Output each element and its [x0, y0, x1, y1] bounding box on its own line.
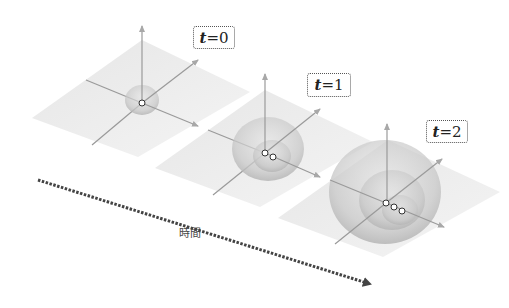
- point: [270, 154, 276, 160]
- label-t2: t = 2: [426, 120, 468, 143]
- point: [262, 150, 268, 156]
- point: [399, 208, 405, 214]
- point: [383, 200, 389, 206]
- time-label: 時間: [179, 224, 201, 240]
- label-val: 0: [219, 29, 229, 47]
- label-var: t: [199, 29, 206, 47]
- point: [391, 204, 397, 210]
- diagram-stage: t = 0 t = 1 t = 2 時間: [0, 0, 509, 308]
- label-t0: t = 0: [193, 26, 235, 49]
- label-val: 1: [334, 76, 344, 94]
- label-eq: =: [439, 123, 452, 141]
- label-var: t: [432, 123, 439, 141]
- label-t1: t = 1: [307, 73, 351, 97]
- diagram-canvas: [0, 0, 509, 308]
- point: [139, 100, 145, 106]
- label-eq: =: [206, 29, 219, 47]
- label-val: 2: [452, 123, 462, 141]
- label-eq: =: [321, 76, 334, 94]
- label-var: t: [314, 76, 321, 94]
